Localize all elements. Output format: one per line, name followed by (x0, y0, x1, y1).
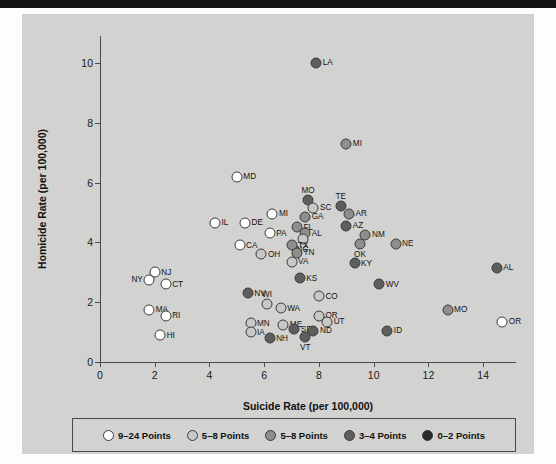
x-tick (483, 362, 484, 367)
data-point[interactable]: SD (289, 324, 300, 335)
data-point[interactable]: KY (349, 258, 360, 269)
data-point[interactable]: IA (245, 327, 256, 338)
y-tick (95, 63, 100, 64)
data-point[interactable]: HI (155, 330, 166, 341)
x-tick-label: 10 (368, 369, 380, 381)
legend-label: 5–8 Points (202, 430, 250, 441)
data-point[interactable]: LA (311, 57, 322, 68)
data-point[interactable]: OH (256, 249, 267, 260)
data-point-label: LA (323, 58, 333, 67)
data-point[interactable]: OR (497, 316, 508, 327)
data-point-marker (300, 211, 311, 222)
data-point-marker (144, 274, 155, 285)
data-point[interactable]: WV (374, 279, 385, 290)
data-point[interactable]: MA (144, 304, 155, 315)
data-point[interactable]: MD (231, 171, 242, 182)
data-point-label: WV (386, 279, 399, 288)
data-point-marker (231, 171, 242, 182)
data-point[interactable]: AL (491, 262, 502, 273)
legend-item[interactable]: 3–4 Points (344, 430, 407, 441)
x-axis-line (100, 362, 516, 363)
data-point-label: MO (301, 186, 314, 195)
data-point[interactable]: RI (160, 310, 171, 321)
legend-item[interactable]: 9–24 Points (103, 430, 171, 441)
y-tick-label: 4 (87, 236, 93, 248)
legend-swatch (187, 430, 198, 441)
data-point-label: KS (306, 273, 317, 282)
data-point[interactable]: CT (160, 279, 171, 290)
data-point-marker (240, 217, 251, 228)
legend-item[interactable]: 5–8 Points (187, 430, 250, 441)
data-point[interactable]: CA (234, 240, 245, 251)
x-tick (100, 362, 101, 367)
data-point[interactable]: AZ (341, 220, 352, 231)
data-point-label: PA (276, 228, 286, 237)
data-point[interactable]: PA (264, 228, 275, 239)
x-tick (155, 362, 156, 367)
y-tick-label: 0 (87, 356, 93, 368)
data-point-marker (374, 279, 385, 290)
data-point-label: VT (300, 342, 310, 351)
data-point-marker (256, 249, 267, 260)
data-point[interactable]: ID (382, 325, 393, 336)
y-tick (95, 302, 100, 303)
data-point-label: RI (172, 311, 180, 320)
y-tick (95, 242, 100, 243)
data-point-marker (382, 325, 393, 336)
data-point-label: KY (361, 258, 372, 267)
y-tick-label: 10 (81, 57, 93, 69)
data-point[interactable]: NH (264, 333, 275, 344)
legend-label: 0–2 Points (437, 430, 485, 441)
data-point[interactable]: ME (278, 319, 289, 330)
legend-swatch (265, 430, 276, 441)
y-tick (95, 183, 100, 184)
legend-item[interactable]: 5–8 Points (265, 430, 328, 441)
data-point[interactable]: VA (286, 256, 297, 267)
data-point-label: DE (252, 218, 263, 227)
data-point[interactable]: OK (355, 238, 366, 249)
data-point[interactable]: MI (341, 138, 352, 149)
data-point-marker (289, 324, 300, 335)
legend-item[interactable]: 0–2 Points (422, 430, 485, 441)
data-point-label: SC (320, 203, 331, 212)
data-point[interactable]: MO (442, 304, 453, 315)
x-tick (374, 362, 375, 367)
data-point-marker (155, 330, 166, 341)
data-point-label: ND (320, 326, 332, 335)
data-point-label: WI (262, 289, 272, 298)
data-point-marker (300, 331, 311, 342)
screenshot-page: 0246810 02468101214 LAMIMDMOSCTEARGAMIAZ… (0, 0, 556, 464)
x-tick-label: 2 (152, 369, 158, 381)
data-point-label: AL (312, 228, 322, 237)
data-point[interactable]: KS (294, 273, 305, 284)
data-point-marker (341, 220, 352, 231)
top-black-band (0, 0, 556, 8)
data-point[interactable]: WI (261, 298, 272, 309)
data-point-marker (144, 304, 155, 315)
data-point-label: UT (334, 317, 345, 326)
data-point-label: GA (312, 212, 324, 221)
data-point[interactable]: AR (344, 208, 355, 219)
data-point-label: NJ (161, 267, 171, 276)
data-point-marker (234, 240, 245, 251)
data-point-label: HI (167, 330, 175, 339)
x-tick-label: 8 (316, 369, 322, 381)
data-point[interactable]: NY (144, 274, 155, 285)
data-point[interactable]: NV (242, 288, 253, 299)
x-tick-label: 4 (207, 369, 213, 381)
data-point-marker (313, 291, 324, 302)
y-tick (95, 123, 100, 124)
legend-swatch (344, 430, 355, 441)
data-point-label: MD (243, 172, 256, 181)
chart-legend: 9–24 Points5–8 Points5–8 Points3–4 Point… (72, 418, 516, 452)
data-point[interactable]: NE (390, 238, 401, 249)
data-point[interactable]: GA (300, 211, 311, 222)
data-point[interactable]: WA (275, 303, 286, 314)
data-point[interactable]: CO (313, 291, 324, 302)
data-point-label: CO (325, 291, 337, 300)
data-point[interactable]: IL (209, 217, 220, 228)
data-point[interactable]: MI (267, 208, 278, 219)
data-point-marker (341, 138, 352, 149)
data-point[interactable]: VT (300, 331, 311, 342)
data-point[interactable]: DE (240, 217, 251, 228)
